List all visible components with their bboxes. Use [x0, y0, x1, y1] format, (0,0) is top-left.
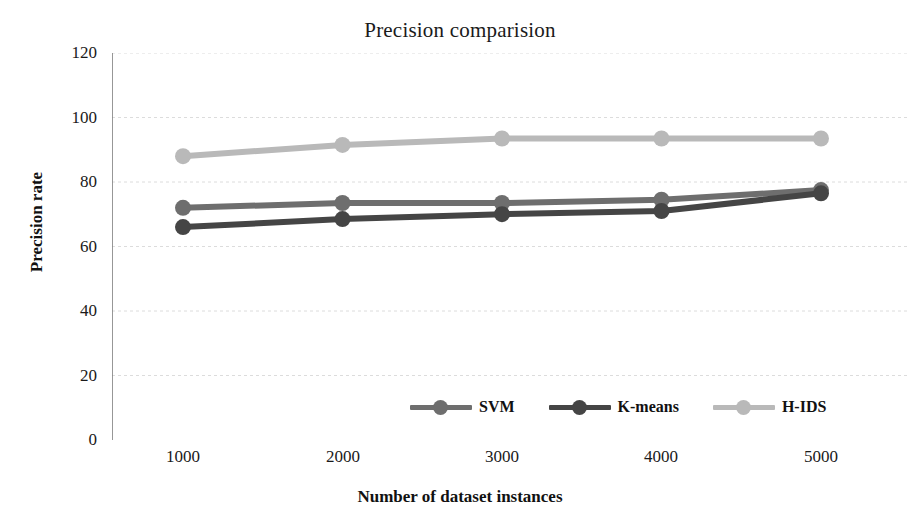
legend-label-hids: H-IDS	[782, 398, 826, 416]
y-tick-40: 40	[45, 301, 97, 321]
x-tick-4000: 4000	[616, 447, 706, 467]
y-tick-60: 60	[45, 237, 97, 257]
data-point	[335, 211, 351, 227]
y-tick-100: 100	[45, 108, 97, 128]
data-point	[494, 206, 510, 222]
data-point	[494, 131, 510, 147]
data-point	[335, 137, 351, 153]
data-point	[654, 203, 670, 219]
data-point	[175, 148, 191, 164]
x-tick-5000: 5000	[776, 447, 866, 467]
x-axis-title: Number of dataset instances	[0, 487, 920, 507]
x-tick-2000: 2000	[298, 447, 388, 467]
chart-figure: Precision comparision Precision rate 0 2…	[0, 0, 920, 521]
legend-label-svm: SVM	[479, 398, 515, 416]
y-tick-80: 80	[45, 172, 97, 192]
data-point	[335, 195, 351, 211]
plot-svg	[112, 53, 907, 440]
x-tick-1000: 1000	[138, 447, 228, 467]
data-point	[813, 131, 829, 147]
legend-label-kmeans: K-means	[618, 398, 679, 416]
y-axis-title: Precision rate	[27, 152, 47, 292]
legend-marker-icon-kmeans	[549, 400, 611, 414]
y-axis-tick-labels: 0 20 40 60 80 100 120	[45, 53, 97, 440]
legend-item-svm[interactable]: SVM	[410, 398, 515, 416]
plot-area	[112, 53, 907, 440]
x-axis-tick-labels: 1000 2000 3000 4000 5000	[112, 447, 907, 473]
legend-item-hids[interactable]: H-IDS	[713, 398, 826, 416]
chart-legend: SVM K-means H-IDS	[410, 398, 826, 416]
data-point	[813, 185, 829, 201]
legend-marker-icon-svm	[410, 400, 472, 414]
data-series-layer	[175, 131, 829, 236]
x-tick-3000: 3000	[457, 447, 547, 467]
data-point	[175, 200, 191, 216]
y-tick-120: 120	[45, 43, 97, 63]
data-point	[654, 131, 670, 147]
series-h-ids	[175, 131, 829, 165]
legend-item-kmeans[interactable]: K-means	[549, 398, 679, 416]
data-point	[175, 219, 191, 235]
chart-title: Precision comparision	[0, 18, 920, 43]
y-tick-20: 20	[45, 366, 97, 386]
legend-marker-icon-hids	[713, 400, 775, 414]
y-tick-0: 0	[45, 430, 97, 450]
